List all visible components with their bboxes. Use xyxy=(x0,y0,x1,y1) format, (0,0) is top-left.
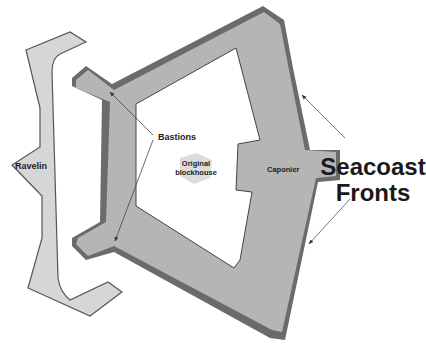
blockhouse-label-line1: Original xyxy=(182,159,210,168)
seacoast-fronts-title-line2: Fronts xyxy=(336,179,411,206)
blockhouse-label-line2: blockhouse xyxy=(175,168,217,177)
seacoast-fronts-title-line1: Seacoast xyxy=(320,153,425,180)
ravelin-label: Ravelin xyxy=(15,161,47,171)
fort-diagram: Ravelin Bastions Original blockhouse Cap… xyxy=(0,0,426,353)
bastions-label: Bastions xyxy=(158,132,196,142)
caponier-label: Caponier xyxy=(267,165,300,174)
